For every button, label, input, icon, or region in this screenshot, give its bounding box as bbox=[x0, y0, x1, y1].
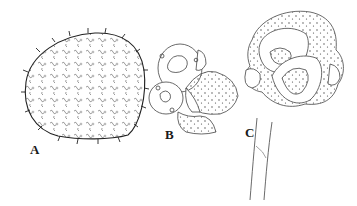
illustration-drawing bbox=[0, 0, 357, 206]
panel-label-c: C bbox=[245, 126, 254, 139]
panel-a-spore bbox=[21, 28, 149, 144]
panel-b-cluster bbox=[149, 44, 238, 134]
panel-label-a: A bbox=[30, 143, 39, 156]
figure-illustration: A B C bbox=[0, 0, 357, 206]
panel-c-stalked-cluster bbox=[245, 11, 344, 200]
panel-label-b: B bbox=[165, 128, 174, 141]
